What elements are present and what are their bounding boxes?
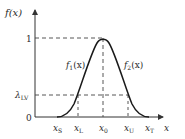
- y-tick-lambda: λLV: [14, 90, 29, 101]
- y-axis-label: f(x): [4, 7, 22, 18]
- x-axis-label: x: [164, 123, 169, 133]
- membership-curve: [57, 39, 149, 117]
- x-tick-xl: xL: [74, 123, 83, 134]
- membership-diagram: f(x) 1 λLV 0 xS xL x0 xU xT x f1(x) f2(x…: [0, 0, 185, 139]
- curve-label-f1: f1(x): [65, 60, 85, 71]
- x-tick-x0: x0: [99, 123, 108, 134]
- curve-label-f2: f2(x): [123, 60, 143, 71]
- x-tick-xt: xT: [145, 123, 154, 134]
- x-tick-xs: xS: [53, 123, 62, 134]
- x-tick-xu: xU: [124, 123, 134, 134]
- y-tick-one: 1: [26, 34, 32, 44]
- y-tick-zero: 0: [26, 113, 32, 123]
